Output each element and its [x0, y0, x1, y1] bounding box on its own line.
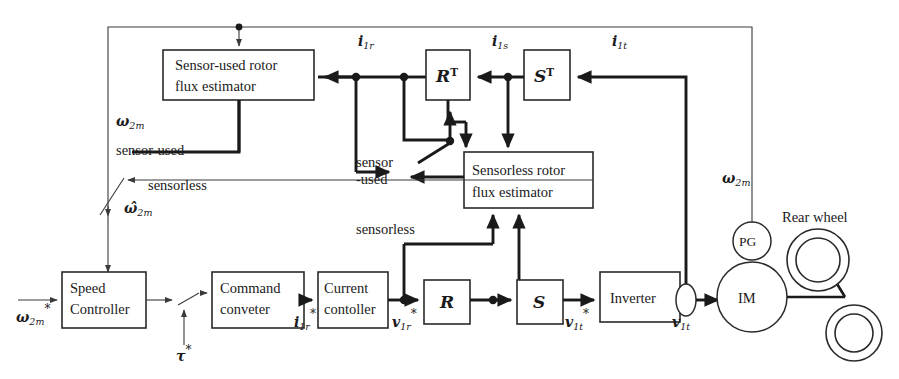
- junction-dot-i1r: [400, 73, 408, 81]
- pg-label: PG: [739, 234, 757, 249]
- rear-wheel-upper: [787, 229, 849, 291]
- control-block-diagram: Sensor-used rotor flux estimator Sensorl…: [0, 0, 899, 379]
- label-switch-sensor-line1: sensor: [356, 154, 393, 170]
- torque-command-path: [146, 293, 207, 345]
- im-label: IM: [738, 290, 756, 306]
- sensor-used-estimator-line1: Sensor-used rotor: [175, 57, 278, 73]
- label-sensor-used-left: sensor-used: [116, 142, 185, 158]
- current-controller-line2: contoller: [324, 301, 376, 317]
- current-sensor-icon: [676, 284, 696, 316]
- signal-w2m-top-label: ω2m: [116, 113, 144, 131]
- command-converter-line1: Command: [220, 280, 281, 296]
- signal-i1t-label: i1t: [612, 33, 627, 51]
- s-block-label: S: [533, 292, 545, 312]
- signal-i1r-label: i1r: [358, 33, 375, 51]
- inverter-label: Inverter: [610, 290, 656, 306]
- sensor-used-estimator-line2: flux estimator: [175, 78, 256, 94]
- rear-wheel-lower: [826, 305, 882, 361]
- signal-w2m-right-label: ω2m: [722, 170, 750, 188]
- speed-controller-line1: Speed: [70, 280, 106, 296]
- label-switch-sensorless: sensorless: [356, 221, 415, 237]
- diagram-canvas: Sensor-used rotor flux estimator Sensorl…: [0, 0, 899, 379]
- junction-dot-v1r: [400, 296, 408, 304]
- current-controller-line1: Current: [324, 280, 368, 296]
- signal-v1t-ref-label: v1t*: [565, 307, 589, 332]
- signal-tau-ref-label: τ*: [176, 343, 191, 364]
- rear-wheel-label: Rear wheel: [782, 209, 848, 225]
- signal-w2m-ref-label: ω2m*: [16, 302, 50, 327]
- signal-w2m-hat-label: ω̂2m: [124, 200, 152, 218]
- junction-dot-i1s: [504, 73, 512, 81]
- signal-i1s-label: i1s: [492, 33, 508, 51]
- i1t-bus: [578, 77, 686, 300]
- speed-source-switch[interactable]: [100, 178, 124, 272]
- junction-dot-top: [236, 24, 243, 31]
- v-path-r-to-s: [470, 296, 519, 304]
- label-sensorless-left: sensorless: [148, 177, 207, 193]
- command-converter-line2: conveter: [220, 301, 270, 317]
- sensorless-estimator-line1: Sensorless rotor: [472, 162, 565, 178]
- v1r-ref-path: [388, 244, 418, 304]
- sensorless-estimator-line2: flux estimator: [472, 184, 553, 200]
- speed-controller-line2: Controller: [70, 301, 130, 317]
- signal-v1t-label: v1t: [672, 314, 690, 332]
- inverter-output-path: [676, 284, 718, 316]
- r-block-label: R: [439, 292, 454, 312]
- label-switch-sensor-line2: -used: [356, 171, 388, 187]
- junction-dot-rs: [489, 296, 497, 304]
- estimator-source-switch[interactable]: [418, 112, 454, 163]
- signal-v1r-ref-label: v1r*: [392, 307, 417, 332]
- i1s-bus: [478, 73, 524, 147]
